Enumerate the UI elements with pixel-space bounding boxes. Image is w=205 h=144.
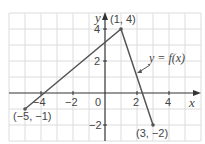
y-tick-2: 2 [94, 56, 100, 67]
y-tick-m2: −2 [89, 120, 102, 131]
right-point-label: (3, −2) [136, 128, 168, 139]
graph-canvas [0, 0, 205, 144]
point-peak [119, 27, 123, 31]
x-tick-m4: −4 [33, 97, 46, 108]
x-axis-label: x [189, 96, 195, 109]
function-label: y = f(x) [149, 52, 185, 64]
left-point-label: (−5, −1) [13, 111, 52, 122]
x-tick-2: 2 [133, 97, 139, 108]
peak-label: (1, 4) [110, 14, 136, 25]
pointer-arrow-icon [137, 69, 142, 73]
x-tick-m2: −2 [65, 97, 78, 108]
y-tick-4: 4 [94, 24, 100, 35]
origin-label: 0 [95, 97, 101, 108]
axes [9, 17, 196, 141]
x-tick-4: 4 [165, 97, 171, 108]
